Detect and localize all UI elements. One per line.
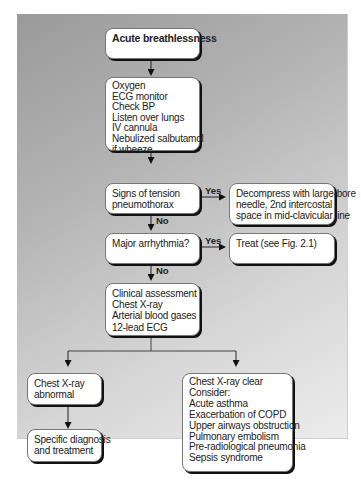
yes-label-arrhythmia: Yes (205, 235, 221, 246)
node-text: Signs of tension (112, 188, 193, 199)
node-tension-pneumothorax: Signs of tension pneumothorax (105, 183, 200, 214)
node-text: Chest X-ray (34, 378, 95, 389)
node-text: Exacerbation of COPD (189, 410, 286, 421)
node-text: Clinical assessment (112, 288, 193, 299)
node-text: Treat (see Fig. 2.1) (236, 238, 328, 249)
no-label-tension: No (156, 215, 169, 226)
node-text: needle, 2nd intercostal (236, 199, 328, 210)
node-text: if wheeze (112, 145, 193, 156)
node-text: abnormal (34, 389, 95, 400)
node-text: Chest X-ray (112, 299, 193, 310)
node-initial-management: Oxygen ECG monitor Check BP Listen over … (105, 77, 200, 151)
node-specific-diagnosis: Specific diagnosis and treatment (27, 429, 102, 462)
node-text: pneumothorax (112, 199, 193, 210)
node-clinical-assessment: Clinical assessment Chest X-ray Arterial… (105, 283, 200, 336)
node-xray-clear: Chest X-ray clear Consider: Acute asthma… (182, 373, 293, 472)
node-text: Upper airways obstruction (189, 421, 286, 432)
node-treat: Treat (see Fig. 2.1) (229, 233, 335, 264)
node-text: Decompress with large-bore (236, 188, 328, 199)
node-text: Oxygen (112, 81, 193, 92)
node-text: Major arrhythmia? (112, 238, 193, 249)
node-text: Sepsis syndrome (189, 453, 286, 464)
node-decompress: Decompress with large-bore needle, 2nd i… (229, 183, 335, 225)
no-label-arrhythmia: No (156, 265, 169, 276)
node-major-arrhythmia: Major arrhythmia? (105, 233, 200, 264)
node-text: Nebulized salbutamol (112, 134, 193, 145)
yes-label-tension: Yes (205, 185, 221, 196)
node-text: Acute breathlessness (112, 33, 193, 44)
node-xray-abnormal: Chest X-ray abnormal (27, 373, 102, 405)
node-acute-breathlessness: Acute breathlessness (105, 28, 200, 59)
node-text: space in mid-clavicular line (236, 210, 328, 221)
node-text: Specific diagnosis (34, 434, 95, 445)
node-text: Arterial blood gases (112, 310, 193, 321)
node-text: and treatment (34, 445, 95, 456)
node-text: 12-lead ECG (112, 322, 193, 333)
